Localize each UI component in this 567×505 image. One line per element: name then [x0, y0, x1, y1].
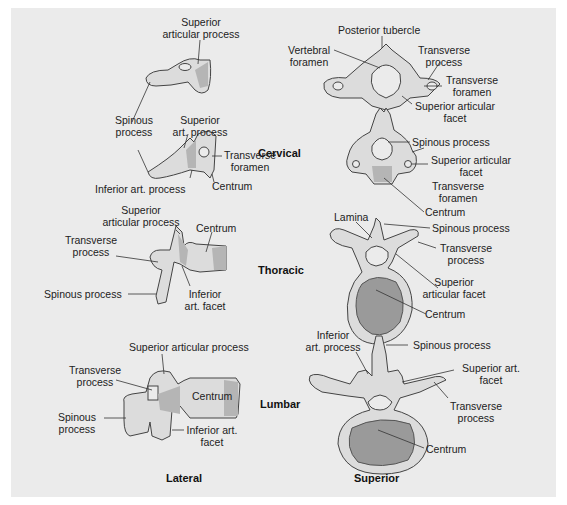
label-posterior-tubercle: Posterior tubercle	[338, 24, 420, 36]
label-centrum: Centrum	[425, 206, 465, 218]
label-superior-articular-facet: Superior articular facet	[410, 100, 500, 124]
label-transverse-process: Transverse process	[436, 242, 496, 266]
label-centrum: Centrum	[212, 180, 252, 192]
label-spinous-process: Spinous process	[432, 222, 510, 234]
thoracic-superior-bone	[330, 218, 418, 344]
label-superior-art-process: Superior art. process	[168, 114, 232, 138]
label-spinous-process: Spinous process	[106, 114, 162, 138]
label-transverse-process: Transverse process	[60, 234, 122, 258]
label-inferior-art-facet: Inferior art. facet	[180, 288, 230, 312]
label-superior-art-facet: Superior art. facet	[456, 362, 526, 386]
view-label-lateral: Lateral	[166, 472, 202, 484]
label-spinous-process: Spinous process	[52, 411, 102, 435]
label-superior-articular-facet: Superior articular facet	[426, 154, 516, 178]
label-transverse-process: Transverse process	[414, 44, 474, 68]
label-centrum: Centrum	[425, 308, 465, 320]
label-inferior-art-process: Inferior art. process	[95, 183, 185, 195]
cervical-superior-typical-bone	[347, 108, 417, 184]
region-label-thoracic: Thoracic	[258, 264, 304, 276]
label-transverse-foramen: Transverse foramen	[220, 149, 280, 173]
label-transverse-process: Transverse process	[66, 364, 124, 388]
cervical-lateral-top-bone	[146, 59, 211, 93]
label-centrum: Centrum	[192, 390, 232, 402]
label-vertebral-foramen: Vertebral foramen	[284, 44, 334, 68]
label-inferior-art-process: Inferior art. process	[300, 329, 366, 353]
label-superior-articular-process: Superior articular process	[158, 16, 244, 40]
label-superior-articular-facet: Superior articular facet	[416, 276, 492, 300]
label-transverse-foramen: Transverse foramen	[428, 180, 488, 204]
label-transverse-process: Transverse process	[444, 400, 508, 424]
label-spinous-process: Spinous process	[412, 136, 490, 148]
label-spinous-process: Spinous process	[44, 288, 122, 300]
label-transverse-foramen: Transverse foramen	[442, 74, 502, 98]
label-lamina: Lamina	[334, 211, 368, 223]
label-inferior-art-facet: Inferior art. facet	[182, 424, 242, 448]
label-spinous-process: Spinous process	[413, 339, 491, 351]
label-centrum: Centrum	[196, 222, 236, 234]
cervical-lateral-bottom-bone	[148, 131, 216, 178]
label-superior-articular-process: Superior articular process	[96, 204, 186, 228]
label-centrum: Centrum	[426, 443, 466, 455]
region-label-lumbar: Lumbar	[260, 398, 300, 410]
view-label-superior: Superior	[354, 472, 399, 484]
label-superior-articular-process: Superior articular process	[129, 341, 249, 353]
